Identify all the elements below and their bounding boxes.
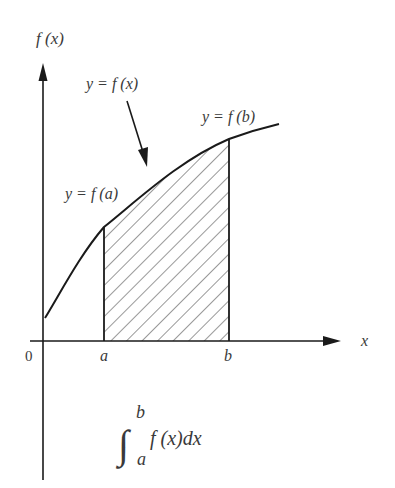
integral-expression: ∫ b a f (x)dx — [115, 402, 202, 469]
integral-diagram: f (x) y = f (x) y = f (b) y = f (a) x 0 … — [0, 0, 395, 488]
curve-label: y = f (x) — [84, 75, 138, 93]
tick-a-label: a — [100, 347, 108, 364]
point-b-label: y = f (b) — [200, 108, 255, 126]
shaded-area — [100, 120, 235, 345]
integral-sign: ∫ — [115, 422, 132, 469]
tick-b-label: b — [224, 347, 232, 364]
x-axis-arrow-icon — [323, 336, 341, 346]
y-axis-label: f (x) — [36, 29, 64, 48]
y-axis-arrow-icon — [39, 63, 48, 81]
pointer-arrow-icon — [138, 147, 148, 167]
origin-label: 0 — [25, 348, 33, 364]
curve-pointer-arrow — [127, 101, 148, 167]
integral-upper-limit: b — [136, 402, 145, 422]
y-axis — [39, 63, 48, 480]
integral-integrand: f (x)dx — [150, 427, 202, 450]
x-axis-label: x — [360, 332, 368, 349]
integral-lower-limit: a — [137, 449, 146, 469]
point-a-label: y = f (a) — [63, 185, 118, 203]
